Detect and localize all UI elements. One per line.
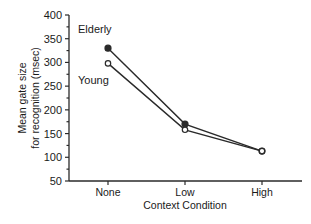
y-axis-label-line1: Mean gate size xyxy=(16,62,28,133)
y-axis-label: Mean gate size for recognition (msec) xyxy=(16,47,41,149)
y-tick-label: 100 xyxy=(44,151,62,163)
y-tick-label: 350 xyxy=(44,33,62,45)
y-ticks: 50100150200250300350400 xyxy=(44,9,69,187)
data-point-elderly xyxy=(105,45,111,51)
y-axis-label-line2: for recognition (msec) xyxy=(29,47,41,149)
x-tick-label: High xyxy=(251,186,273,198)
data-point-young xyxy=(182,127,187,132)
data-point-young xyxy=(105,61,110,66)
y-tick-label: 400 xyxy=(44,9,62,21)
series-label-young: Young xyxy=(78,74,109,86)
x-axis-label: Context Condition xyxy=(143,199,227,211)
data-point-elderly xyxy=(182,121,188,127)
series-group xyxy=(105,45,265,154)
y-tick-label: 50 xyxy=(50,175,62,187)
chart-container: 50100150200250300350400 NoneLowHigh Mean… xyxy=(0,0,311,224)
y-tick-label: 300 xyxy=(44,56,62,68)
x-ticks: NoneLowHigh xyxy=(95,181,273,198)
series-line-young xyxy=(108,63,262,151)
series-label-elderly: Elderly xyxy=(78,23,112,35)
line-chart: 50100150200250300350400 NoneLowHigh Mean… xyxy=(0,0,311,224)
x-tick-label: None xyxy=(95,186,120,198)
x-tick-label: Low xyxy=(175,186,195,198)
data-point-young xyxy=(259,148,264,153)
y-tick-label: 250 xyxy=(44,80,62,92)
y-tick-label: 150 xyxy=(44,128,62,140)
y-tick-label: 200 xyxy=(44,104,62,116)
series-line-elderly xyxy=(108,48,262,151)
